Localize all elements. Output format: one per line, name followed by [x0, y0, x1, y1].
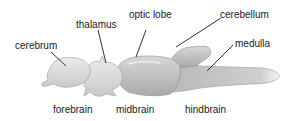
- label-cerebellum: cerebellum: [220, 9, 269, 20]
- region-hindbrain: hindbrain: [185, 104, 226, 115]
- label-medulla: medulla: [235, 38, 270, 49]
- label-optic-lobe: optic lobe: [129, 9, 172, 20]
- region-forebrain: forebrain: [53, 104, 92, 115]
- label-cerebrum: cerebrum: [15, 40, 57, 51]
- cerebellum-leader: [176, 18, 221, 47]
- optic-lobe-leader: [136, 30, 146, 57]
- region-midbrain: midbrain: [116, 104, 154, 115]
- label-thalamus: thalamus: [76, 19, 117, 30]
- cerebrum-shape: [42, 57, 91, 87]
